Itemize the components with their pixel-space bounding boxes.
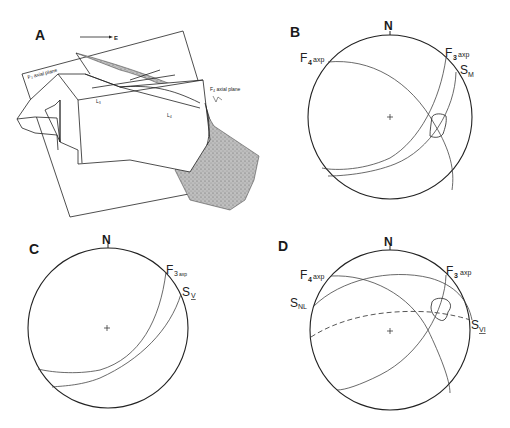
pole-contour-d	[431, 298, 451, 320]
label-f4-b: F 4 axp	[300, 51, 324, 66]
east-label: E	[114, 35, 118, 41]
l4-label: L₄	[167, 112, 172, 118]
panel-a: A E F₃ axial plane F₄ axi	[17, 27, 259, 217]
label-sv-c: S V	[182, 285, 196, 299]
panel-b: B N F 4 axp F 3 axp S M	[290, 19, 474, 199]
svg-text:axp: axp	[458, 51, 469, 59]
svg-text:S: S	[460, 63, 468, 77]
panel-label-b: B	[290, 24, 300, 40]
north-label-c: N	[102, 233, 111, 247]
svg-text:F: F	[166, 263, 173, 277]
label-f3-b: F 3 axp	[445, 46, 469, 61]
great-circle-svi-d	[311, 311, 470, 337]
f4-leader-line	[213, 96, 222, 102]
svg-text:axp: axp	[460, 269, 471, 277]
label-snl-d: S NL	[290, 296, 307, 310]
svg-text:V: V	[191, 292, 196, 299]
center-cross-b	[387, 114, 393, 120]
center-cross-d	[387, 328, 393, 334]
great-circle-f4-b	[328, 62, 453, 190]
north-label-d: N	[384, 235, 393, 249]
svg-text:VI: VI	[479, 326, 486, 333]
svg-text:3: 3	[454, 272, 458, 279]
svg-text:4: 4	[308, 59, 312, 66]
figure-canvas: A E F₃ axial plane F₄ axi	[0, 0, 510, 428]
svg-text:S: S	[471, 318, 479, 332]
panel-d: D N F 4 axp F 3 axp S NL S VI	[278, 235, 486, 410]
svg-text:NL: NL	[298, 303, 307, 310]
label-f4-d: F 4 axp	[300, 268, 324, 283]
north-label-b: N	[384, 19, 393, 33]
svg-text:axp: axp	[179, 271, 187, 277]
panel-label-a: A	[35, 27, 45, 43]
great-circle-f4-d	[331, 276, 450, 393]
east-arrow: E	[80, 35, 118, 41]
great-circle-f3-b	[322, 58, 446, 169]
svg-text:F: F	[300, 268, 307, 282]
svg-text:4: 4	[308, 276, 312, 283]
label-sm-b: S M	[460, 63, 474, 78]
svg-text:S: S	[290, 296, 298, 310]
svg-text:F: F	[445, 46, 452, 60]
label-f3-c: F 3 axp	[166, 263, 187, 277]
center-cross-c	[104, 325, 110, 331]
svg-text:3: 3	[453, 54, 457, 61]
svg-text:M: M	[468, 71, 474, 78]
great-circle-f3-c	[38, 272, 166, 373]
svg-text:S: S	[182, 285, 190, 299]
great-circle-f3-d	[337, 275, 446, 390]
label-f3-d: F 3 axp	[446, 264, 471, 279]
svg-text:F: F	[300, 51, 307, 65]
panel-label-d: D	[278, 238, 288, 254]
l3-label: L₃	[96, 98, 101, 104]
panel-c: C N F 3 axp S V	[28, 233, 196, 408]
f4-axial-plane-label: F₄ axial plane	[210, 86, 241, 92]
panel-label-c: C	[29, 241, 39, 257]
svg-text:3: 3	[174, 270, 178, 277]
svg-text:axp: axp	[313, 273, 324, 281]
svg-text:F: F	[446, 264, 453, 278]
great-circle-sm-b	[328, 72, 456, 176]
svg-text:axp: axp	[313, 56, 324, 64]
label-svi-d: S VI	[471, 318, 486, 333]
great-circle-snl-d	[314, 274, 472, 320]
